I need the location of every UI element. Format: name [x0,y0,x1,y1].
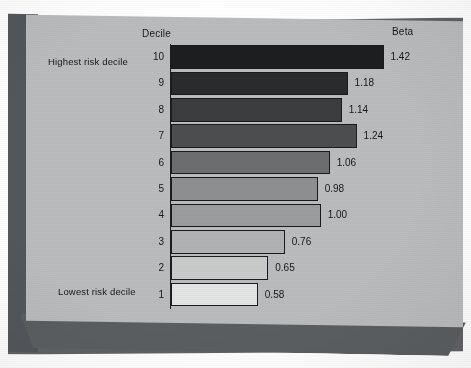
bar-value-label: 1.06 [337,150,356,176]
bar-rows: 101.4291.1881.1471.2461.0650.9841.0030.7… [26,44,463,310]
bar [171,177,318,201]
decile-label: 5 [146,176,164,202]
chart-face: Decile Beta Highest risk decile Lowest r… [26,15,463,327]
bar-row: 10.58 [26,282,463,308]
bar-row: 30.76 [26,229,463,255]
decile-label: 6 [146,150,164,176]
decile-label: 7 [146,123,164,149]
bar [171,45,384,69]
bar [171,230,285,254]
bar-value-label: 0.65 [275,255,294,281]
plot-area: Decile Beta Highest risk decile Lowest r… [26,18,463,324]
decile-label: 9 [146,70,164,96]
bar [171,283,258,307]
bar [171,98,342,122]
bar-value-label: 0.98 [325,176,344,202]
decile-label: 8 [146,97,164,123]
bar-value-label: 0.58 [265,282,284,308]
bar-row: 41.00 [26,202,463,228]
bar-value-label: 1.14 [349,97,368,123]
bar [171,256,268,280]
column-header-decile: Decile [142,28,171,39]
column-header-beta: Beta [392,26,413,37]
decile-label: 3 [146,229,164,255]
bar-row: 20.65 [26,255,463,281]
bar-value-label: 0.76 [292,229,311,255]
bar [171,124,357,148]
bar-value-label: 1.18 [355,70,374,96]
bar-row: 101.42 [26,44,463,70]
bar-row: 71.24 [26,123,463,149]
bar [171,72,348,96]
bar-value-label: 1.00 [328,202,347,228]
bar-value-label: 1.42 [391,44,410,70]
bar-row: 91.18 [26,70,463,96]
bar [171,151,330,175]
bar-row: 50.98 [26,176,463,202]
bar-row: 61.06 [26,150,463,176]
decile-label: 4 [146,202,164,228]
decile-label: 10 [146,44,164,70]
bar-row: 81.14 [26,97,463,123]
decile-label: 2 [146,255,164,281]
decile-label: 1 [146,282,164,308]
bar [171,204,321,228]
chart-screenshot: Decile Beta Highest risk decile Lowest r… [0,0,471,368]
bar-value-label: 1.24 [364,123,383,149]
